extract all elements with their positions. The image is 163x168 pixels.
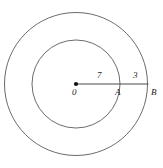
point-label-b: B xyxy=(151,88,157,97)
concentric-circles-svg xyxy=(0,0,163,168)
center-point-marker xyxy=(74,82,78,86)
geometry-figure: 7 3 0 A B xyxy=(0,0,163,168)
segment-length-label-inner: 7 xyxy=(97,71,102,80)
point-label-a: A xyxy=(115,88,121,97)
point-label-center: 0 xyxy=(72,88,77,97)
segment-length-label-outer: 3 xyxy=(133,71,138,80)
